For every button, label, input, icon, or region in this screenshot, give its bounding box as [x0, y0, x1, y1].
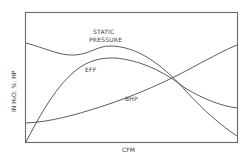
bhp-label: BHP — [125, 95, 138, 102]
y-axis-label: IN H₂O, %, HP — [10, 70, 17, 112]
static-pressure-label-line1: STATIC — [93, 28, 114, 35]
bhp-curve — [26, 45, 237, 123]
x-axis-label: CFM — [122, 146, 135, 153]
fan-performance-chart: STATIC PRESSURE EFF BHP CFM IN H₂O, %, H… — [0, 0, 250, 160]
efficiency-label: EFF — [85, 66, 97, 73]
static-pressure-label-line2: PRESSURE — [89, 36, 122, 43]
plot-frame — [26, 13, 238, 143]
